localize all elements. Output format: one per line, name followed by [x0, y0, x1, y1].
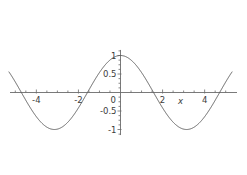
y-tick-label: -0.5 — [100, 106, 117, 116]
y-tick-label: -1 — [108, 125, 116, 135]
y-tick-label: 0.5 — [103, 69, 117, 79]
x-tick-label: -4 — [32, 95, 40, 105]
y-tick-label: 1 — [111, 51, 116, 61]
cosine-plot-figure: -4-202410.5-0.5-1x — [0, 0, 247, 175]
plot-canvas: -4-202410.5-0.5-1x — [0, 0, 247, 175]
x-tick-label: -2 — [74, 95, 82, 105]
x-axis-label: x — [177, 96, 184, 106]
x-tick-label: 4 — [202, 95, 207, 105]
x-tick-label: 0 — [111, 95, 116, 105]
x-tick-label: 2 — [160, 95, 165, 105]
